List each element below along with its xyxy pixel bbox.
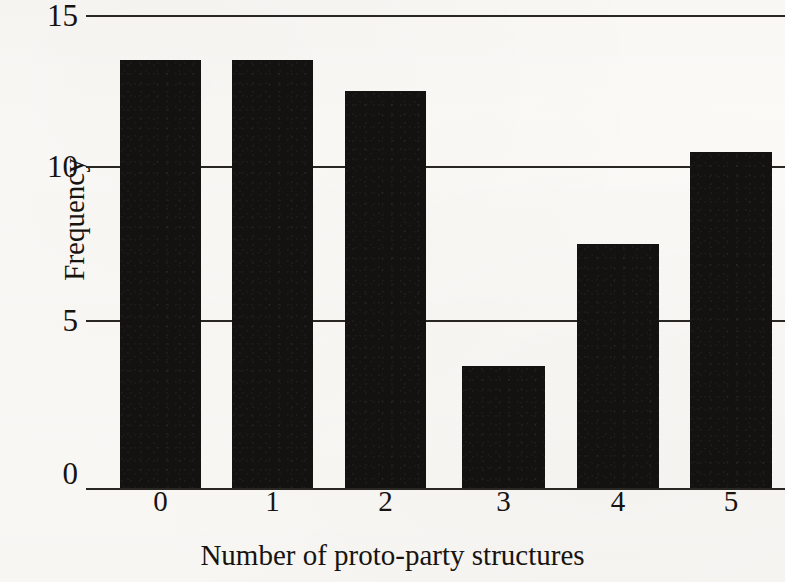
plot-area — [100, 15, 785, 473]
bar-chart-figure: Frequency 15 10 5 0 0 1 2 3 4 5 Number o… — [0, 0, 785, 582]
x-tick-label-0: 0 — [120, 487, 201, 516]
bar-5 — [690, 152, 772, 488]
x-axis-title: Number of proto-party structures — [0, 541, 785, 570]
gridline-5 — [100, 320, 785, 322]
x-tick-label-1: 1 — [232, 487, 313, 516]
y-tick-label-0: 0 — [18, 458, 78, 489]
x-tick-label-3: 3 — [462, 487, 545, 516]
x-tick-label-2: 2 — [345, 487, 426, 516]
y-tick-mark-10 — [86, 166, 102, 168]
gridline-10 — [100, 166, 785, 168]
y-tick-label-10: 10 — [18, 151, 78, 182]
y-tick-mark-5 — [86, 320, 102, 322]
x-tick-label-4: 4 — [577, 487, 659, 516]
bar-1 — [232, 60, 313, 488]
y-tick-label-15: 15 — [18, 0, 78, 31]
y-tick-mark-15 — [86, 15, 102, 17]
bar-0 — [120, 60, 201, 488]
bar-3 — [462, 366, 545, 488]
gridline-15 — [100, 15, 785, 17]
x-axis-baseline — [100, 488, 785, 490]
x-tick-label-5: 5 — [690, 487, 772, 516]
y-tick-label-5: 5 — [18, 305, 78, 336]
bar-2 — [345, 91, 426, 488]
bar-4 — [577, 244, 659, 488]
